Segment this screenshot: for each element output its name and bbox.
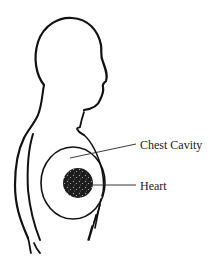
throat-outline xyxy=(77,112,84,135)
heart-shape xyxy=(63,168,93,198)
head-outline xyxy=(36,18,107,110)
torso-illustration xyxy=(0,0,214,273)
back-outline xyxy=(15,138,28,238)
back-neck-outline xyxy=(24,85,44,138)
arm-outline xyxy=(28,134,40,240)
heart-label: Heart xyxy=(140,180,167,192)
arm-lower-outline xyxy=(28,238,40,253)
chest-cavity-leader-line xyxy=(70,144,136,158)
chest-cavity-label: Chest Cavity xyxy=(140,139,202,151)
